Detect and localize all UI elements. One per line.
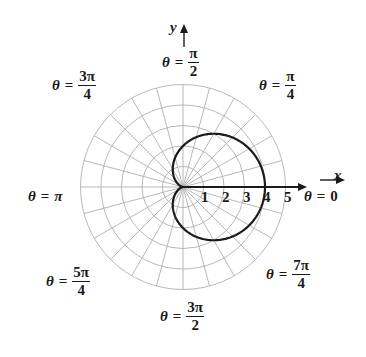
angle-label-pi: θ=π: [28, 188, 63, 205]
y-arrow-icon: [180, 24, 188, 33]
x-axis-label: x: [334, 167, 342, 184]
grid-ray: [183, 98, 234, 187]
r-tick-2: 2: [222, 189, 230, 206]
grid-ray: [111, 187, 183, 259]
r-tick-1: 1: [201, 189, 209, 206]
angle-label-3pi-over-4: θ= 3π4: [52, 69, 96, 102]
grid-ray: [94, 187, 183, 238]
grid-ray: [84, 187, 183, 214]
y-axis-label: y: [170, 19, 177, 36]
angle-label-0: θ=0: [304, 188, 338, 205]
grid-ray: [156, 88, 183, 187]
r-tick-3: 3: [243, 189, 251, 206]
grid-ray: [111, 115, 183, 187]
angle-label-pi-over-2: θ= π2: [162, 46, 199, 79]
angle-label-5pi-over-4: θ= 5π4: [46, 265, 90, 298]
grid-ray: [183, 115, 255, 187]
angle-label-pi-over-4: θ= π4: [259, 69, 296, 102]
angle-label-7pi-over-4: θ= 7π4: [266, 258, 310, 291]
grid-ray: [132, 187, 183, 276]
grid-ray: [183, 160, 282, 187]
grid-ray: [94, 136, 183, 187]
r-tick-4: 4: [263, 189, 271, 206]
grid-ray: [132, 98, 183, 187]
grid-ray: [84, 160, 183, 187]
angle-label-3pi-over-2: θ= 3π2: [160, 300, 204, 333]
grid-ray: [156, 187, 183, 286]
r-tick-5: 5: [284, 189, 292, 206]
